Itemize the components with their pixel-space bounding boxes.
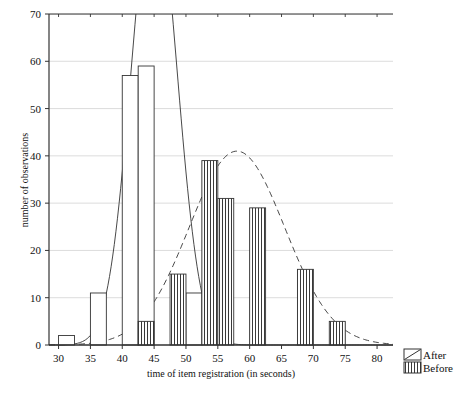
legend-label-before: Before <box>423 362 453 374</box>
xtick-label-50: 50 <box>180 352 192 364</box>
bar-before-47.5 <box>170 274 186 345</box>
ytick-label-0: 0 <box>36 339 42 351</box>
chart-legend: After Before <box>404 349 453 374</box>
histogram-chart: 0102030405060703035404550556065707580num… <box>0 0 461 399</box>
xtick-label-40: 40 <box>117 352 129 364</box>
bar-after-40 <box>122 75 138 345</box>
ytick-label-10: 10 <box>30 292 42 304</box>
vertical-hatch-swatch <box>404 362 421 373</box>
ytick-label-70: 70 <box>30 8 42 20</box>
bar-after-30 <box>59 336 75 345</box>
x-axis-title: time of item registration (in seconds) <box>147 368 295 380</box>
bar-before-42.5 <box>138 321 154 345</box>
bar-after-50 <box>186 293 202 345</box>
ytick-label-60: 60 <box>30 55 42 67</box>
xtick-label-60: 60 <box>244 352 256 364</box>
xtick-label-55: 55 <box>212 352 224 364</box>
y-axis-ticks: 010203040506070 <box>30 8 49 351</box>
xtick-label-80: 80 <box>372 352 384 364</box>
ytick-label-50: 50 <box>30 103 42 115</box>
bar-before-52.5 <box>202 161 218 345</box>
xtick-label-75: 75 <box>340 352 352 364</box>
bar-before-55 <box>218 198 234 345</box>
bar-before-72.5 <box>329 321 345 345</box>
bar-after-35 <box>90 293 106 345</box>
xtick-label-65: 65 <box>276 352 288 364</box>
bar-before-67.5 <box>297 269 313 345</box>
chart-container: 0102030405060703035404550556065707580num… <box>0 0 461 399</box>
ytick-label-30: 30 <box>30 197 42 209</box>
top-mask <box>0 0 461 14</box>
ytick-label-40: 40 <box>30 150 42 162</box>
legend-label-after: After <box>423 349 447 361</box>
bar-after-42.5 <box>138 66 154 345</box>
xtick-label-45: 45 <box>149 352 161 364</box>
xtick-label-70: 70 <box>308 352 320 364</box>
y-axis-title: number of observations <box>19 133 30 228</box>
bar-before-60 <box>250 208 266 345</box>
xtick-label-30: 30 <box>53 352 65 364</box>
xtick-label-35: 35 <box>85 352 97 364</box>
ytick-label-20: 20 <box>30 244 42 256</box>
